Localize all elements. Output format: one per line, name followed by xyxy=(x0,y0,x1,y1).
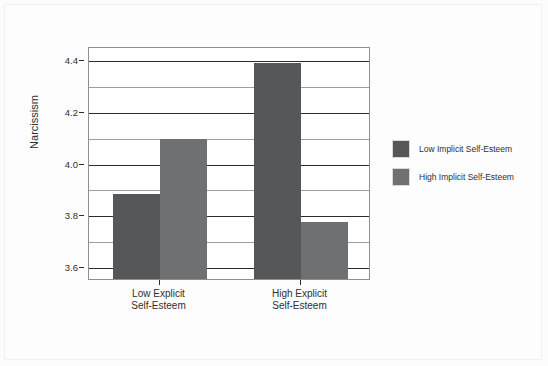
chart-figure: Narcissism 3.63.84.04.24.4 Low ExplicitS… xyxy=(0,0,548,366)
y-axis-title: Narcissism xyxy=(28,52,40,192)
y-tick-mark xyxy=(79,60,84,61)
y-tick-mark xyxy=(79,267,84,268)
x-tick-label-line2: Self-Esteem xyxy=(99,300,219,312)
chart-legend: Low Implicit Self-EsteemHigh Implicit Se… xyxy=(392,140,514,196)
plot-area xyxy=(88,47,370,280)
bar-high-implicit-group2 xyxy=(301,222,348,279)
legend-item: High Implicit Self-Esteem xyxy=(392,168,514,186)
x-tick-label-line2: Self-Esteem xyxy=(240,300,360,312)
gridline-major xyxy=(89,61,369,62)
legend-swatch-icon xyxy=(392,168,410,186)
gridline-minor xyxy=(89,139,369,140)
bar-high-implicit-group1 xyxy=(160,139,207,279)
y-axis-ticks: 3.63.84.04.24.4 xyxy=(46,47,84,280)
y-tick-label: 4.4 xyxy=(65,54,78,65)
x-tick-mark xyxy=(159,280,160,285)
bar-low-implicit-group1 xyxy=(113,194,160,279)
y-tick-label: 4.0 xyxy=(65,158,78,169)
y-tick-mark xyxy=(79,215,84,216)
x-tick-mark xyxy=(300,280,301,285)
y-tick-label: 3.6 xyxy=(65,262,78,273)
y-tick-mark xyxy=(79,164,84,165)
x-tick-label: Low ExplicitSelf-Esteem xyxy=(99,288,219,311)
bar-low-implicit-group2 xyxy=(254,63,301,279)
legend-label: High Implicit Self-Esteem xyxy=(419,172,514,182)
y-tick-label: 3.8 xyxy=(65,210,78,221)
x-tick-label-line1: High Explicit xyxy=(272,288,327,299)
legend-item: Low Implicit Self-Esteem xyxy=(392,140,514,158)
x-tick-label-line1: Low Explicit xyxy=(132,288,185,299)
y-tick-label: 4.2 xyxy=(65,106,78,117)
y-tick-mark xyxy=(79,112,84,113)
gridline-minor xyxy=(89,87,369,88)
gridline-major xyxy=(89,113,369,114)
legend-label: Low Implicit Self-Esteem xyxy=(419,144,512,154)
legend-swatch-icon xyxy=(392,140,410,158)
gridline-minor xyxy=(89,190,369,191)
gridline-major xyxy=(89,165,369,166)
x-tick-label: High ExplicitSelf-Esteem xyxy=(240,288,360,311)
